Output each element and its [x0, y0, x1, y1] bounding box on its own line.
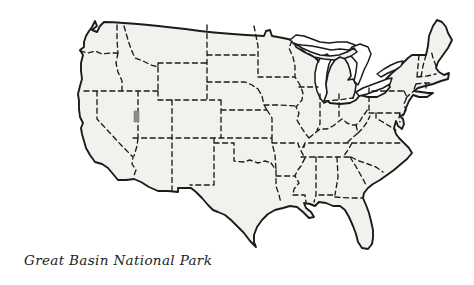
map-caption: Great Basin National Park	[24, 252, 212, 268]
us-map	[0, 0, 474, 285]
great-basin-park-marker	[134, 111, 139, 122]
map-figure: Great Basin National Park	[0, 0, 474, 285]
